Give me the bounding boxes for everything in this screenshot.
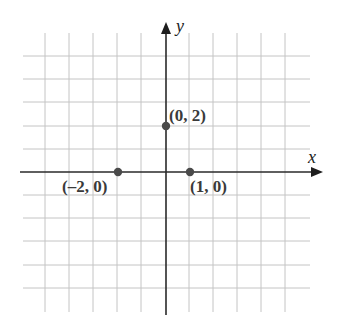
point-label-1-0: (1, 0): [190, 177, 227, 196]
y-axis-arrow-icon: [161, 22, 171, 34]
point-neg2-0: [114, 168, 122, 176]
coordinate-plane: x y (0, 2) (–2, 0) (1, 0): [0, 0, 337, 328]
point-label-neg2-0: (–2, 0): [62, 177, 107, 196]
point-1-0: [186, 168, 194, 176]
x-axis-arrow-icon: [311, 167, 323, 177]
x-axis-label: x: [307, 147, 316, 167]
point-label-0-2: (0, 2): [169, 106, 206, 125]
y-axis-label: y: [174, 16, 184, 36]
